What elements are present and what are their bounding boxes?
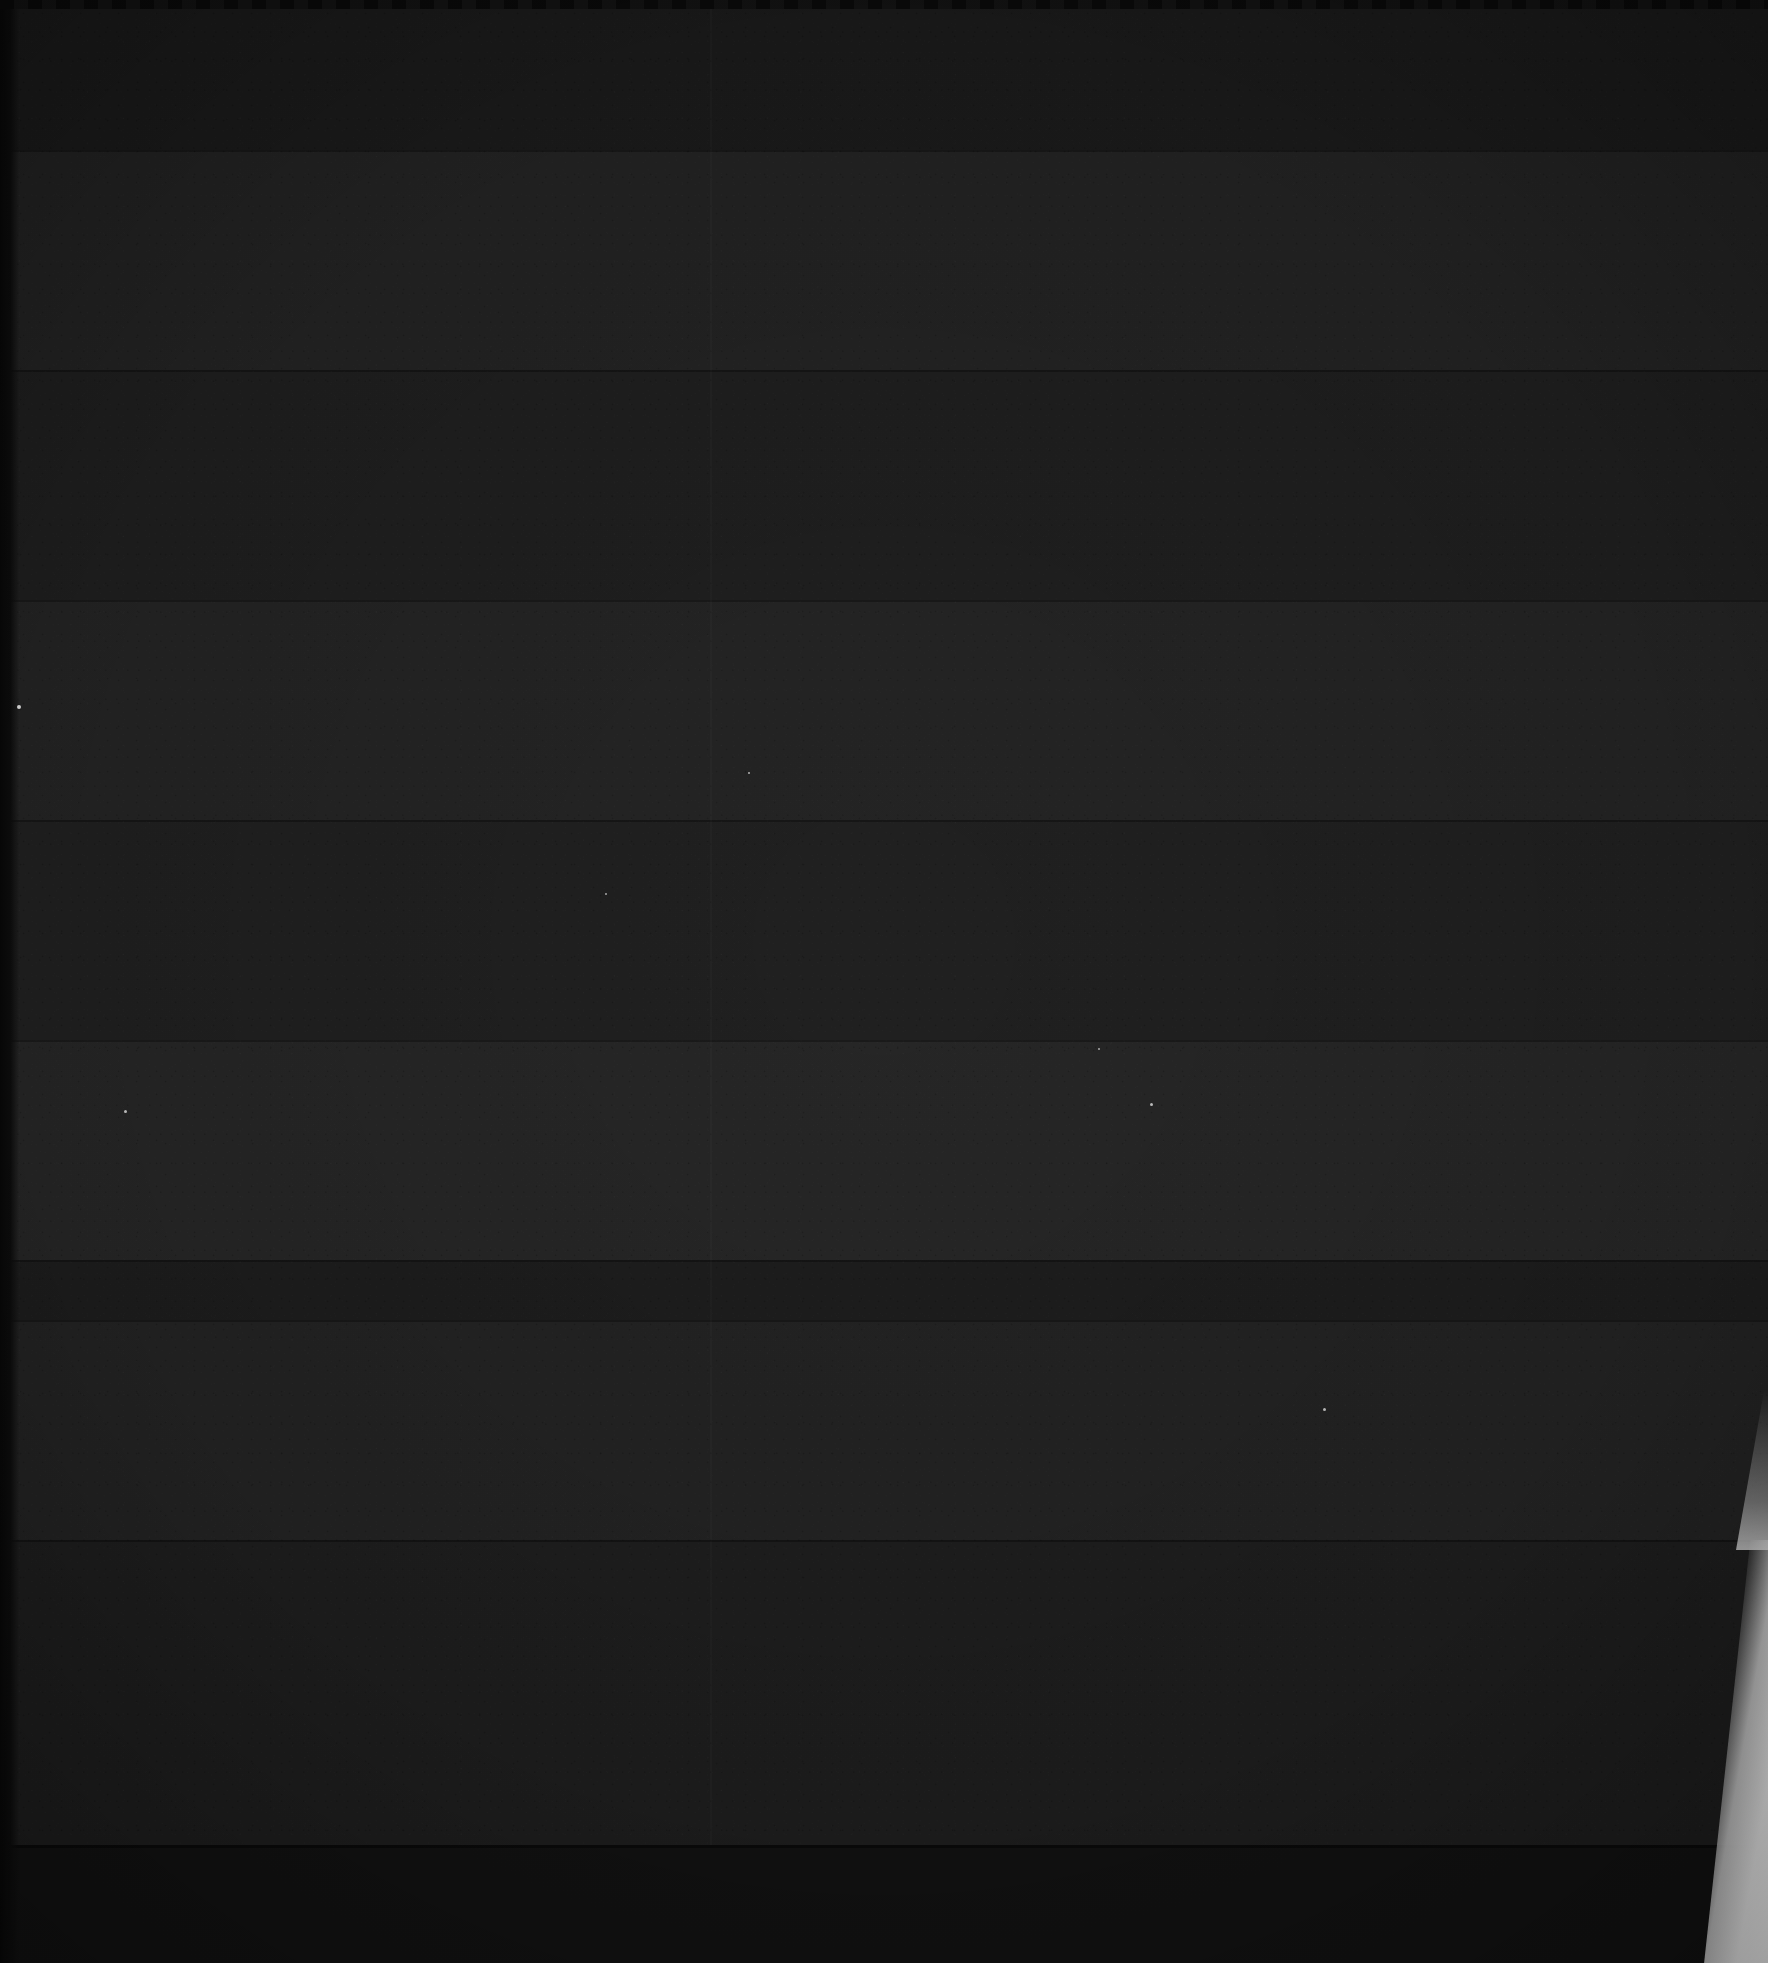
image-frame: Near-black heavily underexposed frame wi…	[0, 0, 1768, 1963]
dark-noise-field	[0, 0, 1768, 1963]
